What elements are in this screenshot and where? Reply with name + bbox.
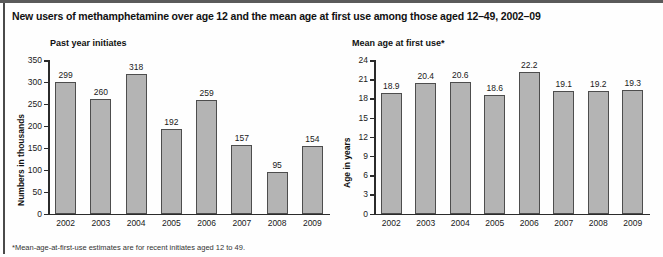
bar-value-label: 19.3 bbox=[616, 78, 651, 88]
y-tick-mark bbox=[370, 137, 374, 139]
y-tick-mark bbox=[44, 104, 48, 106]
y-tick-mark bbox=[44, 192, 48, 194]
bar-value-label: 20.4 bbox=[409, 71, 444, 81]
bar-value-label: 318 bbox=[119, 62, 154, 72]
x-tick-label: 2008 bbox=[260, 218, 295, 228]
bar-value-label: 157 bbox=[224, 133, 259, 143]
bar bbox=[267, 172, 288, 214]
y-tick-label: 0 bbox=[363, 209, 368, 219]
bar-value-label: 299 bbox=[48, 70, 83, 80]
y-tick-mark bbox=[370, 194, 374, 196]
y-tick-label: 9 bbox=[363, 151, 368, 161]
y-tick-mark bbox=[370, 214, 374, 216]
bar bbox=[90, 99, 111, 213]
top-divider-rule bbox=[0, 0, 663, 3]
x-tick-label: 2008 bbox=[581, 218, 616, 228]
x-tick-label: 2006 bbox=[189, 218, 224, 228]
x-tick-label: 2007 bbox=[224, 218, 259, 228]
bar bbox=[588, 91, 609, 214]
y-tick-label: 300 bbox=[28, 77, 42, 87]
x-axis-line-right bbox=[374, 214, 650, 216]
y-tick-label: 6 bbox=[363, 170, 368, 180]
y-tick-label: 350 bbox=[28, 55, 42, 65]
bar-value-label: 19.2 bbox=[581, 79, 616, 89]
y-tick-mark bbox=[44, 170, 48, 172]
chart-panel-past-year-initiates: Past year initiates Numbers in thousands… bbox=[10, 38, 340, 238]
x-tick-label: 2003 bbox=[83, 218, 118, 228]
x-tick-label: 2009 bbox=[616, 218, 651, 228]
x-tick-label: 2007 bbox=[547, 218, 582, 228]
y-axis-title-right: Age in years bbox=[342, 137, 352, 188]
y-tick-label: 21 bbox=[359, 74, 368, 84]
x-tick-label: 2004 bbox=[119, 218, 154, 228]
y-tick-label: 250 bbox=[28, 99, 42, 109]
y-axis-title-left: Numbers in thousands bbox=[16, 114, 26, 206]
bar-value-label: 22.2 bbox=[512, 60, 547, 70]
x-tick-label: 2002 bbox=[374, 218, 409, 228]
x-tick-label: 2004 bbox=[443, 218, 478, 228]
left-divider-rule bbox=[3, 3, 5, 254]
figure-title: New users of methamphetamine over age 12… bbox=[12, 10, 652, 22]
x-axis-line-left bbox=[48, 214, 330, 216]
y-tick-label: 24 bbox=[359, 55, 368, 65]
y-axis-line-left bbox=[48, 60, 50, 215]
y-tick-label: 15 bbox=[359, 113, 368, 123]
y-tick-mark bbox=[370, 98, 374, 100]
bar bbox=[126, 74, 147, 213]
bar bbox=[622, 90, 643, 213]
bar-value-label: 260 bbox=[83, 87, 118, 97]
y-tick-label: 3 bbox=[363, 189, 368, 199]
bar-value-label: 18.6 bbox=[478, 83, 513, 93]
bar-value-label: 20.6 bbox=[443, 70, 478, 80]
x-tick-label: 2005 bbox=[478, 218, 513, 228]
x-tick-label: 2002 bbox=[48, 218, 83, 228]
bar-value-label: 154 bbox=[295, 134, 330, 144]
y-tick-mark bbox=[370, 156, 374, 158]
y-tick-label: 18 bbox=[359, 93, 368, 103]
y-tick-label: 0 bbox=[37, 209, 42, 219]
bar bbox=[161, 129, 182, 213]
y-tick-mark bbox=[44, 148, 48, 150]
y-tick-label: 150 bbox=[28, 143, 42, 153]
y-tick-label: 50 bbox=[33, 187, 42, 197]
bar bbox=[381, 93, 402, 214]
bar-value-label: 259 bbox=[189, 88, 224, 98]
y-tick-mark bbox=[44, 214, 48, 216]
bar bbox=[484, 95, 505, 214]
bar bbox=[415, 83, 436, 213]
bar-value-label: 19.1 bbox=[547, 79, 582, 89]
y-tick-mark bbox=[44, 60, 48, 62]
figure-footnote: *Mean-age-at-first-use estimates are for… bbox=[12, 243, 245, 252]
y-tick-label: 12 bbox=[359, 132, 368, 142]
bar bbox=[553, 91, 574, 213]
x-tick-label: 2005 bbox=[154, 218, 189, 228]
bar bbox=[55, 82, 76, 213]
bar bbox=[302, 146, 323, 214]
y-tick-mark bbox=[370, 60, 374, 62]
chart-panel-mean-age: Mean age at first use* Age in years 0369… bbox=[340, 38, 658, 238]
figure-container: New users of methamphetamine over age 12… bbox=[0, 0, 663, 257]
bar-value-label: 95 bbox=[260, 160, 295, 170]
y-tick-mark bbox=[44, 82, 48, 84]
plot-area-left: 050100150200250300350 bbox=[48, 60, 330, 215]
x-tick-label: 2006 bbox=[512, 218, 547, 228]
y-tick-label: 200 bbox=[28, 121, 42, 131]
bar bbox=[519, 72, 540, 214]
bar-value-label: 192 bbox=[154, 117, 189, 127]
chart-title-left: Past year initiates bbox=[50, 38, 127, 48]
y-tick-mark bbox=[370, 118, 374, 120]
x-tick-label: 2003 bbox=[409, 218, 444, 228]
chart-title-right: Mean age at first use* bbox=[352, 38, 445, 48]
x-tick-label: 2009 bbox=[295, 218, 330, 228]
bar bbox=[196, 100, 217, 214]
bar-value-label: 18.9 bbox=[374, 81, 409, 91]
y-tick-mark bbox=[44, 126, 48, 128]
bar bbox=[231, 145, 252, 214]
bar bbox=[450, 82, 471, 214]
y-tick-label: 100 bbox=[28, 165, 42, 175]
y-tick-mark bbox=[370, 175, 374, 177]
